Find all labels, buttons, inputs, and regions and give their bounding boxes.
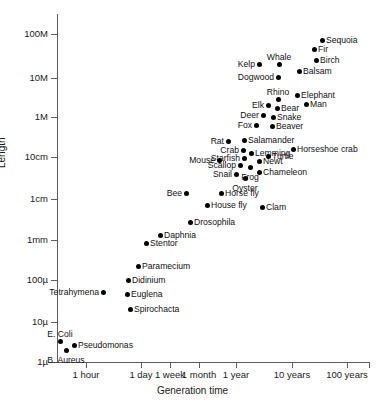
- y-tick-mark: [51, 78, 58, 79]
- data-point-label: B. Aureus: [47, 356, 84, 365]
- data-point: [312, 47, 317, 52]
- y-tick-label: 10M: [0, 73, 48, 83]
- data-point-label: Chameleon: [263, 168, 307, 177]
- data-point: [136, 264, 141, 269]
- data-point: [297, 69, 302, 74]
- data-point: [101, 290, 106, 295]
- x-tick-label: 1 hour: [73, 370, 100, 380]
- data-point: [295, 93, 300, 98]
- data-point: [226, 139, 231, 144]
- data-point-label: Rhino: [267, 88, 289, 97]
- data-point-label: Horse fly: [225, 189, 259, 198]
- data-point-label: Spirochacta: [134, 305, 179, 314]
- y-tick-label: 100M: [0, 29, 48, 39]
- x-axis-line: [57, 362, 370, 363]
- y-tick-label: 1M: [0, 112, 48, 122]
- x-tick-label: 1 day: [129, 370, 152, 380]
- y-tick-mark: [51, 240, 58, 241]
- x-tick-mark: [170, 362, 171, 368]
- data-point: [257, 159, 262, 164]
- data-point: [243, 176, 248, 181]
- y-tick-label: 10cm: [0, 152, 48, 162]
- data-point: [270, 124, 275, 129]
- y-tick-mark: [51, 280, 58, 281]
- data-point: [276, 97, 281, 102]
- x-tick-mark: [292, 362, 293, 368]
- x-tick-label: 1 week: [155, 370, 185, 380]
- data-point-label: Newt: [263, 157, 283, 166]
- y-tick-mark: [51, 199, 58, 200]
- data-point: [260, 205, 265, 210]
- data-point: [238, 163, 243, 168]
- data-point: [126, 278, 131, 283]
- data-point: [275, 106, 280, 111]
- data-point: [219, 191, 224, 196]
- data-point-label: Bee: [167, 189, 182, 198]
- data-point-label: Horseshoe crab: [297, 145, 358, 154]
- x-tick-label: 1 year: [223, 370, 249, 380]
- data-point: [205, 203, 210, 208]
- data-point-label: Paramecium: [142, 262, 190, 271]
- data-point: [271, 115, 276, 120]
- data-point: [266, 103, 271, 108]
- x-tick-mark: [141, 362, 142, 368]
- data-point: [241, 148, 246, 153]
- data-point: [242, 156, 247, 161]
- data-point-label: Kelp: [238, 60, 255, 69]
- data-point: [276, 75, 281, 80]
- scatter-chart: 100M10M1M10cm1cm1mm100µ10µ1µ 1 hour1 day…: [0, 0, 385, 404]
- data-point-label: Didinium: [132, 276, 165, 285]
- y-tick-label: 10µ: [0, 317, 48, 327]
- data-point-label: Euglena: [131, 290, 163, 299]
- x-tick-label: 1 month: [182, 370, 216, 380]
- data-point: [184, 191, 189, 196]
- x-tick-mark: [199, 362, 200, 368]
- data-point: [72, 343, 77, 348]
- data-point-label: Stentor: [150, 239, 178, 248]
- y-axis-line: [57, 14, 58, 362]
- data-point-label: Balsam: [303, 67, 332, 76]
- x-tick-mark: [236, 362, 237, 368]
- data-point-label: Beaver: [276, 122, 303, 131]
- y-axis-title: Length: [0, 137, 7, 168]
- data-point: [254, 123, 259, 128]
- y-tick-mark: [51, 117, 58, 118]
- data-point: [242, 138, 247, 143]
- y-tick-mark: [51, 34, 58, 35]
- data-point: [144, 241, 149, 246]
- y-tick-label: 1mm: [0, 235, 48, 245]
- data-point-label: Drosophila: [194, 218, 235, 227]
- data-point-label: Clam: [266, 203, 286, 212]
- data-point-label: Sequoia: [326, 36, 358, 45]
- data-point-label: Elk: [252, 101, 264, 110]
- data-point-label: Salamander: [248, 136, 294, 145]
- data-point: [261, 113, 266, 118]
- y-tick-label: 1cm: [0, 194, 48, 204]
- y-tick-mark: [51, 322, 58, 323]
- data-point: [249, 151, 254, 156]
- x-tick-mark: [369, 362, 370, 368]
- data-point-label: Pseudomonas: [78, 341, 133, 350]
- x-tick-mark: [347, 362, 348, 368]
- data-point-label: Deer: [240, 111, 259, 120]
- x-tick-mark: [86, 362, 87, 368]
- data-point-label: Man: [310, 100, 327, 109]
- data-point-label: Fox: [238, 121, 252, 130]
- data-point: [64, 348, 69, 353]
- y-tick-label: 100µ: [0, 275, 48, 285]
- data-point: [277, 62, 282, 67]
- data-point: [248, 165, 253, 170]
- data-point: [304, 102, 309, 107]
- data-point-label: Tetrahymena: [49, 288, 99, 297]
- data-point: [314, 58, 319, 63]
- data-point-label: Dogwood: [238, 73, 274, 82]
- data-point-label: Fir: [318, 45, 328, 54]
- data-point: [257, 62, 262, 67]
- data-point-label: Birch: [320, 56, 340, 65]
- data-point: [128, 307, 133, 312]
- data-point: [257, 170, 262, 175]
- y-tick-label: 1µ: [0, 357, 48, 367]
- data-point: [158, 233, 163, 238]
- y-tick-mark: [51, 157, 58, 158]
- x-tick-label: 10 years: [274, 370, 310, 380]
